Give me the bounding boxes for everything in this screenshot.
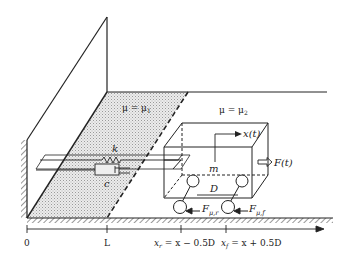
friction-rear-label: Fμ,r [201,203,219,217]
position-axis [27,225,324,233]
displacement-arrow [215,134,236,162]
displacement-arrowhead-icon [235,131,242,137]
mass-label: m [209,163,218,174]
spring-label: k [112,143,118,154]
force-label: F(t) [273,157,293,168]
axis-tick-label-xf: xf = x + 0.5D [221,238,281,250]
wheel-front-front [222,201,235,214]
wheelbase-label: D [209,183,218,194]
ground [27,218,333,223]
wheel-rear-back [187,175,199,187]
friction-front-label: Fμ,f [248,203,266,217]
damper-label: c [104,178,110,189]
axis-tick-label-xr: xr = x − 0.5D [154,238,215,249]
wheels [174,175,249,214]
wheel-front-back [236,175,248,187]
force-arrow-icon [258,158,272,167]
axis-tick-label-0: 0 [24,238,30,248]
mechanical-diagram: k c D m x(t) [0,0,353,261]
axis-tick-label-L: L [104,238,110,248]
displacement-label: x(t) [243,128,261,139]
wheel-rear-front [174,201,187,214]
region-mu1-label: μ = μ1 [122,103,151,114]
region-mu2-label: μ = μ2 [219,105,248,116]
